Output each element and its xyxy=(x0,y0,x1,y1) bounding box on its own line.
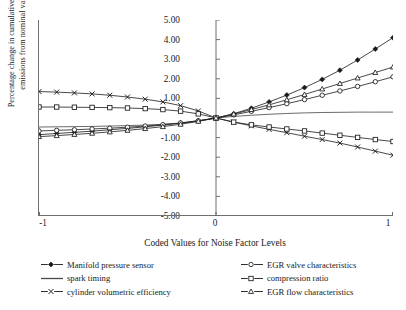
chart-figure: Percentage change in cumulative HC feedg… xyxy=(0,0,406,310)
legend-marker-filled-diamond-icon xyxy=(40,258,66,271)
chart-legend: Manifold pressure sensorspark timingcyli… xyxy=(38,258,398,302)
legend-marker-open-triangle-icon xyxy=(240,285,266,298)
legend-item[interactable]: compression ratio xyxy=(240,272,406,286)
legend-item-label: spark timing xyxy=(66,273,110,283)
legend-item-label: cylinder volumetric efficiency xyxy=(66,287,171,297)
legend-item-label: EGR flow characteristics xyxy=(266,287,353,297)
plot-area xyxy=(38,20,392,216)
legend-item-label: compression ratio xyxy=(266,273,328,283)
legend-marker-open-circle-icon xyxy=(240,258,266,271)
legend-column-left: Manifold pressure sensorspark timingcyli… xyxy=(40,258,220,299)
legend-item[interactable]: cylinder volumetric efficiency xyxy=(40,285,220,299)
legend-marker-open-square-icon xyxy=(240,272,266,285)
legend-item[interactable]: EGR flow characteristics xyxy=(240,285,406,299)
x-tick-label: 0 xyxy=(213,218,218,228)
legend-column-right: EGR valve characteristicscompression rat… xyxy=(240,258,406,299)
legend-item[interactable]: Manifold pressure sensor xyxy=(40,258,220,272)
x-axis-title: Coded Values for Noise Factor Levels xyxy=(38,238,392,248)
legend-marker-none-icon xyxy=(40,272,66,285)
x-axis-tick-labels: -101 xyxy=(38,218,392,234)
legend-item-label: Manifold pressure sensor xyxy=(66,260,154,270)
legend-item[interactable]: EGR valve characteristics xyxy=(240,258,406,272)
legend-item-label: EGR valve characteristics xyxy=(266,260,356,270)
x-tick-label: -1 xyxy=(39,218,47,228)
x-tick-label: 1 xyxy=(386,218,391,228)
legend-item[interactable]: spark timing xyxy=(40,272,220,286)
plot-canvas xyxy=(39,20,393,216)
y-axis-title: Percentage change in cumulative HC feedg… xyxy=(6,0,28,133)
legend-marker-x-icon xyxy=(40,285,66,298)
